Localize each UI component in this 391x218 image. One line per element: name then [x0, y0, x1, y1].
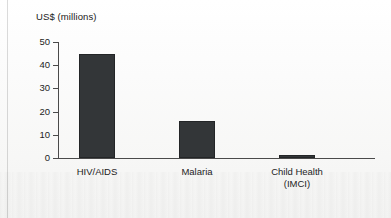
bar [79, 54, 115, 158]
bar [179, 121, 215, 158]
x-axis-category-label: HIV/AIDS [47, 166, 147, 178]
y-tick-mark [53, 42, 58, 43]
y-tick-label-wrap: 50 [26, 37, 50, 47]
y-axis-title: US$ (millions) [36, 11, 97, 22]
y-tick-label-wrap: 0 [26, 153, 50, 163]
y-tick-mark [53, 112, 58, 113]
y-tick-label: 40 [28, 60, 50, 70]
y-tick-label: 30 [28, 83, 50, 93]
y-tick-mark [53, 65, 58, 66]
y-tick-mark [53, 158, 58, 159]
y-tick-label-wrap: 30 [26, 83, 50, 93]
bar-chart: US$ (millions) 01020304050 HIV/AIDSMalar… [0, 0, 391, 218]
y-tick-label: 50 [28, 37, 50, 47]
y-tick-label: 0 [28, 153, 50, 163]
x-axis-category-label: Child Health (IMCI) [247, 166, 347, 190]
y-tick-label: 20 [28, 107, 50, 117]
y-tick-mark [53, 88, 58, 89]
chart-page: US$ (millions) 01020304050 HIV/AIDSMalar… [0, 0, 391, 218]
y-tick-label-wrap: 40 [26, 60, 50, 70]
x-axis-line [58, 158, 375, 159]
y-tick-label: 10 [28, 130, 50, 140]
y-axis-line [58, 42, 59, 159]
y-tick-mark [53, 135, 58, 136]
y-tick-label-wrap: 10 [26, 130, 50, 140]
x-axis-category-label: Malaria [147, 166, 247, 178]
bar [279, 155, 315, 158]
y-tick-label-wrap: 20 [26, 107, 50, 117]
